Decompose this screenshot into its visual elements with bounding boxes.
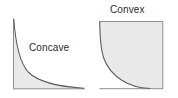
diagram-container: Concave Convex (0, 0, 178, 98)
convex-shape-group (99, 21, 163, 89)
concave-shape-group (13, 19, 85, 89)
concave-label: Concave (29, 42, 69, 53)
convex-filled-region (100, 22, 163, 89)
concave-filled-region (14, 19, 85, 89)
convex-label: Convex (110, 4, 145, 15)
curve-shapes-diagram (0, 0, 178, 98)
